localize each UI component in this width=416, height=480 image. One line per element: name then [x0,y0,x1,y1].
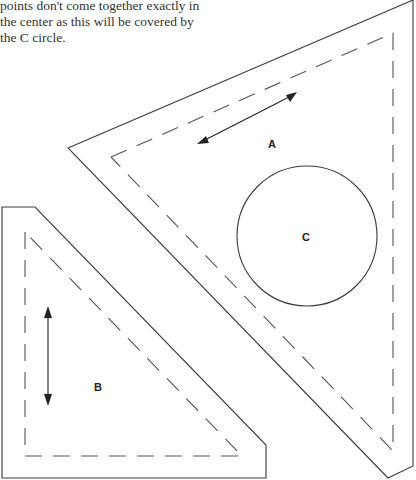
piece-a-label: A [268,138,276,150]
piece-a-cut-line [68,0,413,478]
arrowhead-icon [286,92,297,102]
piece-a: A [68,0,413,478]
piece-b: B [2,207,266,478]
piece-b-grainline-arrow [44,306,52,406]
piece-b-label: B [94,381,102,393]
pattern-diagram: A C B [0,0,416,480]
piece-a-grainline-arrow [197,92,297,144]
piece-c: C [237,166,377,306]
arrowhead-icon [44,306,52,318]
piece-c-label: C [302,231,310,243]
arrowhead-icon [44,394,52,406]
piece-a-seam-line [111,33,393,451]
piece-b-cut-line [2,207,266,478]
piece-b-seam-line [25,232,242,456]
arrowhead-icon [197,136,209,144]
